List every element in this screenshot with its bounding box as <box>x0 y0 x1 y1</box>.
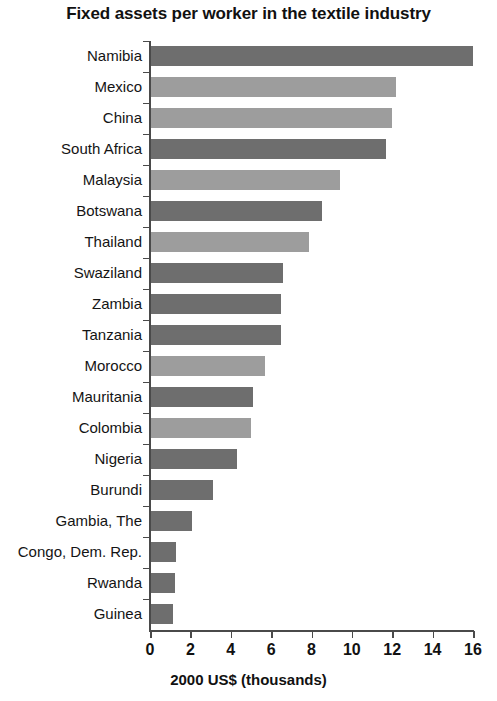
x-axis-tick-label: 0 <box>130 641 170 659</box>
x-axis-tick <box>473 631 475 638</box>
bar <box>150 294 281 314</box>
x-axis-tick <box>271 631 273 638</box>
bar <box>150 201 322 221</box>
bar-row: Botswana <box>0 196 497 226</box>
category-label: Colombia <box>79 413 142 443</box>
x-axis-tick <box>433 631 435 638</box>
bar <box>150 77 396 97</box>
bar <box>150 232 309 252</box>
bar-row: Thailand <box>0 227 497 257</box>
bar <box>150 325 281 345</box>
category-label: Mauritania <box>72 382 142 412</box>
category-label: Malaysia <box>83 165 142 195</box>
category-label: Congo, Dem. Rep. <box>18 537 142 567</box>
bar <box>150 511 192 531</box>
x-axis-tick <box>150 631 152 638</box>
x-axis-title: 2000 US$ (thousands) <box>0 671 497 688</box>
x-axis-tick-label: 12 <box>372 641 412 659</box>
bar-row: South Africa <box>0 134 497 164</box>
bar-row: Swaziland <box>0 258 497 288</box>
bar <box>150 139 386 159</box>
bar <box>150 356 265 376</box>
category-label: South Africa <box>61 134 142 164</box>
x-axis-tick-label: 2 <box>170 641 210 659</box>
bar <box>150 170 340 190</box>
category-label: Burundi <box>90 475 142 505</box>
x-axis-tick-label: 8 <box>292 641 332 659</box>
bar-row: Guinea <box>0 599 497 629</box>
bar <box>150 604 173 624</box>
x-axis-tick-label: 6 <box>251 641 291 659</box>
bar-row: Morocco <box>0 351 497 381</box>
bar-row: Mexico <box>0 72 497 102</box>
category-label: Rwanda <box>87 568 142 598</box>
bar-row: China <box>0 103 497 133</box>
bar <box>150 108 392 128</box>
y-axis-line <box>149 41 151 631</box>
bar-row: Gambia, The <box>0 506 497 536</box>
plot-area: NamibiaMexicoChinaSouth AfricaMalaysiaBo… <box>0 0 497 701</box>
bar <box>150 418 251 438</box>
bar-row: Colombia <box>0 413 497 443</box>
x-axis-tick <box>231 631 233 638</box>
category-label: Swaziland <box>74 258 142 288</box>
category-label: Guinea <box>94 599 142 629</box>
bar <box>150 449 237 469</box>
bar <box>150 387 253 407</box>
bar-row: Zambia <box>0 289 497 319</box>
bar <box>150 542 176 562</box>
x-axis-tick-label: 14 <box>413 641 453 659</box>
bar-row: Tanzania <box>0 320 497 350</box>
bar-row: Namibia <box>0 41 497 71</box>
x-axis-tick <box>312 631 314 638</box>
x-axis-tick-label: 16 <box>453 641 493 659</box>
bar <box>150 573 175 593</box>
category-label: Nigeria <box>94 444 142 474</box>
bar <box>150 480 213 500</box>
category-label: Tanzania <box>82 320 142 350</box>
bar <box>150 46 473 66</box>
category-label: Namibia <box>87 41 142 71</box>
category-label: Thailand <box>84 227 142 257</box>
category-label: Botswana <box>76 196 142 226</box>
category-label: Morocco <box>84 351 142 381</box>
x-axis-tick <box>190 631 192 638</box>
chart-figure: Fixed assets per worker in the textile i… <box>0 0 497 701</box>
bar-row: Malaysia <box>0 165 497 195</box>
category-label: Gambia, The <box>56 506 142 536</box>
category-label: Mexico <box>94 72 142 102</box>
x-axis-tick-label: 4 <box>211 641 251 659</box>
category-label: China <box>103 103 142 133</box>
bar <box>150 263 283 283</box>
category-label: Zambia <box>92 289 142 319</box>
bar-row: Congo, Dem. Rep. <box>0 537 497 567</box>
bar-row: Nigeria <box>0 444 497 474</box>
x-axis-tick <box>392 631 394 638</box>
bar-row: Rwanda <box>0 568 497 598</box>
bar-row: Burundi <box>0 475 497 505</box>
x-axis-tick-label: 10 <box>332 641 372 659</box>
x-axis-tick <box>352 631 354 638</box>
bar-row: Mauritania <box>0 382 497 412</box>
